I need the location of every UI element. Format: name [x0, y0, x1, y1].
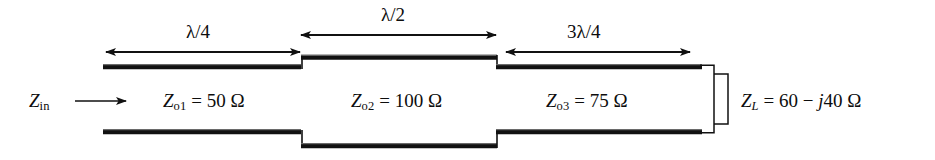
impedance-3-equals: =: [574, 90, 585, 111]
load-impedance-equals: =: [764, 90, 775, 111]
impedance-2-symbol: Z: [351, 90, 362, 111]
load-impedance-box: [714, 74, 728, 124]
impedance-1-unit: Ω: [230, 90, 244, 111]
impedance-3-symbol: Z: [546, 90, 557, 111]
schematic-artwork: [0, 0, 935, 160]
impedance-2-value: 100: [395, 90, 424, 111]
load-impedance-imaginary: 40: [823, 90, 842, 111]
load-impedance-real: 60: [779, 90, 798, 111]
impedance-2-unit: Ω: [428, 90, 442, 111]
label-impedance-section-2: Zo2 = 100 Ω: [351, 91, 442, 113]
load-impedance-symbol: Z: [741, 90, 752, 111]
label-impedance-section-1: Zo1 = 50 Ω: [163, 91, 245, 113]
impedance-1-subscript: o1: [174, 99, 187, 113]
input-impedance-symbol: Z: [29, 90, 40, 111]
label-half-wave: λ/2: [381, 5, 405, 24]
load-impedance-sign: −: [803, 90, 814, 111]
input-impedance-subscript: in: [40, 99, 50, 113]
label-load-impedance: ZL = 60 − j40 Ω: [741, 91, 861, 113]
label-three-quarter-wave: 3λ/4: [567, 22, 601, 41]
impedance-1-equals: =: [191, 90, 202, 111]
impedance-3-subscript: o3: [557, 99, 570, 113]
impedance-2-subscript: o2: [362, 99, 375, 113]
impedance-1-value: 50: [207, 90, 226, 111]
impedance-3-value: 75: [590, 90, 609, 111]
impedance-1-symbol: Z: [163, 90, 174, 111]
label-input-impedance: Zin: [29, 91, 50, 113]
impedance-2-equals: =: [379, 90, 390, 111]
impedance-3-unit: Ω: [613, 90, 627, 111]
transmission-line-diagram: λ/4 λ/2 3λ/4 Zin Zo1 = 50 Ω Zo2 = 100 Ω …: [0, 0, 935, 160]
load-impedance-unit: Ω: [847, 90, 861, 111]
label-impedance-section-3: Zo3 = 75 Ω: [546, 91, 628, 113]
load-impedance-subscript: L: [752, 99, 759, 113]
load-termination-leads: [700, 65, 714, 133]
label-quarter-wave: λ/4: [186, 22, 210, 41]
